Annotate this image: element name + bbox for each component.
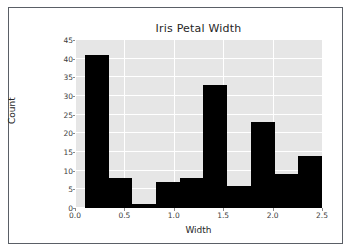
x-tick-mark xyxy=(223,208,224,211)
y-tick-label: 35 xyxy=(51,73,73,82)
y-tick-label: 5 xyxy=(51,185,73,194)
histogram-bar xyxy=(298,156,322,208)
y-tick-label: 15 xyxy=(51,148,73,157)
x-tick-mark xyxy=(124,208,125,211)
y-tick-label: 45 xyxy=(51,36,73,45)
x-tick-label: 1.0 xyxy=(159,211,189,220)
histogram-bar xyxy=(203,85,227,208)
x-tick-label: 2.5 xyxy=(307,211,337,220)
x-axis-tick-labels: 0.00.51.01.52.02.5 xyxy=(75,211,322,223)
x-axis-label: Width xyxy=(75,225,322,235)
x-tick-label: 1.5 xyxy=(208,211,238,220)
histogram-bar xyxy=(109,178,133,208)
figure-canvas: Iris Petal Width Count Width 05101520253… xyxy=(0,0,351,251)
histogram-bar xyxy=(180,178,204,208)
histogram-bar xyxy=(275,174,299,208)
y-tick-label: 30 xyxy=(51,92,73,101)
y-axis-label: Count xyxy=(7,97,17,124)
x-tick-mark xyxy=(174,208,175,211)
y-tick-label: 25 xyxy=(51,110,73,119)
y-tick-label: 40 xyxy=(51,54,73,63)
y-axis-tick-labels: 051015202530354045 xyxy=(47,40,73,208)
x-tick-mark xyxy=(273,208,274,211)
histogram-bars xyxy=(75,40,322,208)
plot-area xyxy=(75,40,322,208)
y-tick-label: 10 xyxy=(51,166,73,175)
histogram-bar xyxy=(132,204,156,208)
histogram-bar xyxy=(251,122,275,208)
x-tick-mark xyxy=(75,208,76,211)
chart-title: Iris Petal Width xyxy=(75,22,322,35)
x-tick-label: 0.0 xyxy=(60,211,90,220)
y-tick-label: 20 xyxy=(51,129,73,138)
histogram-bar xyxy=(227,186,251,208)
x-tick-label: 0.5 xyxy=(109,211,139,220)
figure-frame: Iris Petal Width Count Width 05101520253… xyxy=(8,7,343,244)
gridline-vertical xyxy=(322,40,323,208)
histogram-bar xyxy=(156,182,180,208)
histogram-bar xyxy=(85,55,109,208)
x-tick-label: 2.0 xyxy=(258,211,288,220)
x-tick-mark xyxy=(322,208,323,211)
